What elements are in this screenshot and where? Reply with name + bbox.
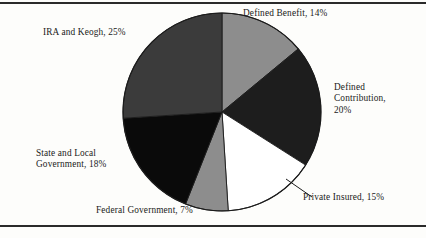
- slice-label-defined-benefit: Defined Benefit, 14%: [243, 8, 327, 19]
- pie-slice-ira-and-keogh: [123, 13, 222, 118]
- slice-label-defined-contribution: Defined Contribution, 20%: [334, 82, 386, 116]
- slice-label-federal-government: Federal Government, 7%: [96, 205, 193, 216]
- top-divider-rule: [0, 2, 426, 4]
- figure-panel: Defined Benefit, 14% Defined Contributio…: [0, 0, 426, 238]
- slice-label-ira-and-keogh: IRA and Keogh, 25%: [43, 27, 126, 38]
- bottom-divider-rule: [0, 225, 426, 227]
- caption-clipped: [0, 230, 426, 238]
- slice-label-private-insured: Private Insured, 15%: [303, 192, 384, 203]
- slice-label-state-and-local-government: State and Local Government, 18%: [36, 148, 106, 171]
